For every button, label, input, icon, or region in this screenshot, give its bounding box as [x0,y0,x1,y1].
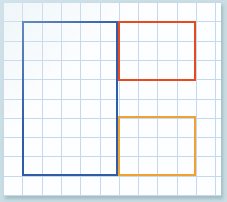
graph-paper [3,2,221,196]
red-rectangle-left-edge [118,21,120,81]
orange-rectangle-bottom-edge [118,174,196,176]
blue-rectangle-left-edge [22,21,24,176]
red-rectangle-top-edge [118,21,196,23]
red-rectangle-bottom-edge [118,79,196,81]
shapes-layer [3,2,221,196]
blue-rectangle-bottom-edge [22,174,118,176]
orange-rectangle-right-edge [194,116,196,176]
orange-rectangle-left-edge [118,116,120,176]
orange-rectangle-top-edge [118,116,196,118]
figure-stage [0,0,227,202]
blue-rectangle-top-edge [22,21,118,23]
red-rectangle-right-edge [194,21,196,81]
